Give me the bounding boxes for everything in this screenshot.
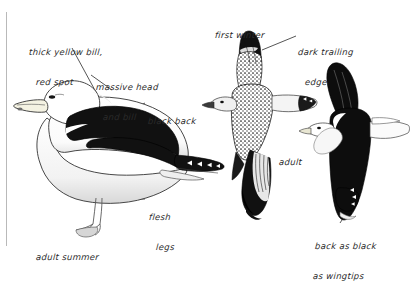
- leader-trailing-edge: [262, 36, 296, 50]
- label-line: black back: [148, 116, 197, 126]
- ad-eye: [317, 127, 321, 129]
- fw-head: [211, 97, 237, 111]
- label-adult-summer: adult summer: [34, 232, 101, 282]
- label-line: adult summer: [36, 252, 100, 262]
- label-line: back as black: [315, 241, 377, 251]
- label-line: red spot: [27, 77, 102, 87]
- label-line: massive head: [96, 82, 159, 92]
- label-line: adult: [279, 157, 303, 167]
- fw-bill: [202, 102, 214, 108]
- label-dark-trailing-edge: dark trailing edge: [294, 27, 355, 107]
- gull-bill-red-spot: [17, 108, 22, 111]
- label-line: first winter: [215, 30, 265, 40]
- label-line: dark trailing: [298, 47, 354, 57]
- label-black-back: black back: [146, 96, 198, 146]
- label-adult: adult: [277, 137, 304, 187]
- label-line: legs: [147, 242, 175, 252]
- label-line: thick yellow bill,: [29, 47, 104, 57]
- label-line: edge: [296, 77, 352, 87]
- ad-bill: [299, 128, 311, 134]
- label-line: as wingtips: [313, 271, 375, 281]
- fw-eye: [220, 101, 224, 103]
- label-line: flesh: [149, 212, 177, 222]
- label-thick-yellow-bill-red-spot: thick yellow bill, red spot: [25, 27, 104, 107]
- label-back-as-black-as-wingtips: back as black as wingtips: [311, 221, 378, 285]
- label-flesh-legs: flesh legs: [145, 192, 178, 272]
- fw-body: [231, 84, 273, 160]
- label-first-winter: first winter: [213, 10, 266, 60]
